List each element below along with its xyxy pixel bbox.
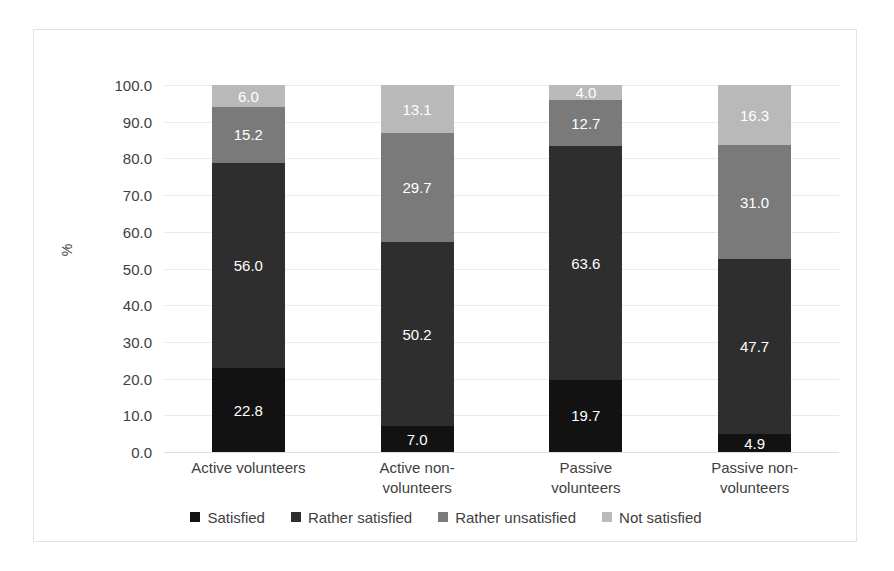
bar-segment[interactable]: 31.0 <box>718 145 791 259</box>
bar-segment[interactable]: 50.2 <box>381 242 454 426</box>
plot-region: % 0.010.020.030.040.050.060.070.080.090.… <box>34 30 858 480</box>
bar-segment[interactable]: 13.1 <box>381 85 454 133</box>
y-axis-tick-label: 30.0 <box>123 334 152 349</box>
legend-entry[interactable]: Not satisfied <box>602 510 702 525</box>
legend-label: Satisfied <box>207 510 265 525</box>
bar-segment-value-label: 6.0 <box>238 89 259 104</box>
bar-segment[interactable]: 12.7 <box>549 100 622 147</box>
y-axis-tick-label: 90.0 <box>123 114 152 129</box>
bar-column[interactable]: 22.856.015.26.0 <box>212 85 285 452</box>
y-axis-tick-label: 80.0 <box>123 151 152 166</box>
y-axis-tick-label: 20.0 <box>123 371 152 386</box>
bar-segment[interactable]: 4.9 <box>718 434 791 452</box>
legend-entry[interactable]: Satisfied <box>190 510 265 525</box>
bar-segment[interactable]: 56.0 <box>212 163 285 369</box>
bar-segment[interactable]: 6.0 <box>212 85 285 107</box>
bar-column[interactable]: 19.763.612.74.0 <box>549 85 622 452</box>
plot-area: 22.856.015.26.07.050.229.713.119.763.612… <box>164 85 839 452</box>
bar-segment[interactable]: 15.2 <box>212 107 285 163</box>
y-axis-tick-label: 0.0 <box>131 445 152 460</box>
gridline <box>164 452 839 453</box>
y-axis-tick-label: 100.0 <box>114 78 152 93</box>
bar-segment-value-label: 31.0 <box>740 195 769 210</box>
bar-segment-value-label: 50.2 <box>403 327 432 342</box>
bar-segment-value-label: 15.2 <box>234 127 263 142</box>
legend-swatch-icon <box>190 512 200 522</box>
y-axis-title: % <box>59 235 75 265</box>
y-axis-tick-labels: 0.010.020.030.040.050.060.070.080.090.01… <box>80 30 158 480</box>
bar-segment-value-label: 4.9 <box>744 436 765 451</box>
bar-segment[interactable]: 29.7 <box>381 133 454 242</box>
x-axis-category-label: Active volunteers <box>188 458 308 478</box>
y-axis-tick-label: 60.0 <box>123 224 152 239</box>
y-axis-tick-label: 40.0 <box>123 298 152 313</box>
bar-segment-value-label: 12.7 <box>571 116 600 131</box>
bar-segment-value-label: 29.7 <box>403 180 432 195</box>
legend-swatch-icon <box>291 512 301 522</box>
bar-segment[interactable]: 19.7 <box>549 380 622 452</box>
bar-segment[interactable]: 7.0 <box>381 426 454 452</box>
bar-segment[interactable]: 22.8 <box>212 368 285 452</box>
legend-label: Rather unsatisfied <box>455 510 576 525</box>
legend-entry[interactable]: Rather unsatisfied <box>438 510 576 525</box>
bar-segment-value-label: 19.7 <box>571 408 600 423</box>
bar-segment-value-label: 56.0 <box>234 258 263 273</box>
chart-container: % 0.010.020.030.040.050.060.070.080.090.… <box>33 29 857 542</box>
y-axis-tick-label: 70.0 <box>123 188 152 203</box>
legend-swatch-icon <box>602 512 612 522</box>
bars-layer: 22.856.015.26.07.050.229.713.119.763.612… <box>164 85 839 452</box>
y-axis-tick-label: 10.0 <box>123 408 152 423</box>
bar-segment-value-label: 13.1 <box>403 102 432 117</box>
bar-segment-value-label: 47.7 <box>740 339 769 354</box>
bar-segment-value-label: 7.0 <box>407 432 428 447</box>
bar-column[interactable]: 4.947.731.016.3 <box>718 85 791 452</box>
chart-legend: SatisfiedRather satisfiedRather unsatisf… <box>34 492 858 542</box>
bar-segment-value-label: 4.0 <box>575 85 596 100</box>
y-axis-tick-label: 50.0 <box>123 261 152 276</box>
bar-segment[interactable]: 4.0 <box>549 85 622 100</box>
bar-segment[interactable]: 47.7 <box>718 259 791 434</box>
bar-column[interactable]: 7.050.229.713.1 <box>381 85 454 452</box>
legend-swatch-icon <box>438 512 448 522</box>
legend-label: Not satisfied <box>619 510 702 525</box>
bar-segment[interactable]: 63.6 <box>549 146 622 379</box>
legend-entry[interactable]: Rather satisfied <box>291 510 412 525</box>
bar-segment-value-label: 63.6 <box>571 256 600 271</box>
bar-segment-value-label: 22.8 <box>234 403 263 418</box>
bar-segment-value-label: 16.3 <box>740 108 769 123</box>
bar-segment[interactable]: 16.3 <box>718 85 791 145</box>
legend-label: Rather satisfied <box>308 510 412 525</box>
